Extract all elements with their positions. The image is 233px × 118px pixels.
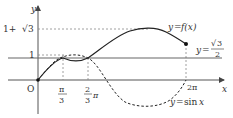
x-tick-pi-over-3: π 3 <box>58 85 67 105</box>
label-sin: y = sin x <box>169 97 204 107</box>
svg-text:3: 3 <box>28 24 34 34</box>
svg-text:=: = <box>176 97 184 107</box>
svg-text:f(x): f(x) <box>180 22 197 32</box>
svg-text:2: 2 <box>215 50 220 59</box>
svg-text:=: = <box>202 45 210 55</box>
svg-text:π: π <box>92 91 99 100</box>
guide-lines <box>38 29 186 80</box>
svg-text:y: y <box>169 97 176 107</box>
curve-f <box>38 28 186 80</box>
label-f: y = f(x) <box>167 22 197 32</box>
y-tick-1-plus-sqrt3: 1+ √ 3 <box>3 24 34 34</box>
svg-text:3: 3 <box>59 96 64 105</box>
function-graph: y x O 1+ √ 3 1 π 3 2 3 π 2π y = f(x) y =… <box>0 0 233 118</box>
svg-text:3: 3 <box>217 39 222 48</box>
svg-text:2: 2 <box>85 85 90 94</box>
y-tick-1: 1 <box>29 50 35 60</box>
svg-text:y: y <box>167 22 174 32</box>
svg-text:3: 3 <box>85 96 90 105</box>
label-const: y = √ 3 2 <box>195 39 224 59</box>
svg-text:π: π <box>59 85 64 94</box>
origin-point <box>36 78 40 82</box>
x-tick-2pi: 2π <box>187 83 197 92</box>
svg-text:sin: sin <box>184 97 197 107</box>
origin-label: O <box>27 84 34 94</box>
x-axis-label: x <box>222 84 227 94</box>
svg-text:y: y <box>195 45 202 55</box>
endpoint-2pi <box>184 42 188 46</box>
y-axis-label: y <box>30 4 37 14</box>
svg-text:1+: 1+ <box>3 24 16 34</box>
svg-text:x: x <box>199 97 204 107</box>
x-tick-2-thirds-pi: 2 3 π <box>84 85 99 105</box>
